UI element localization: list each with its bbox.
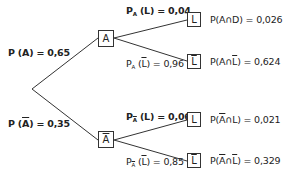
result-P-A-and-D: P(A∩D) = 0,026 [210, 15, 282, 25]
edge-label-PAbar-L: PA (L) = 0,06 [126, 112, 191, 122]
label-part: P ( [8, 118, 22, 129]
label-value: = 0,04 [154, 5, 191, 16]
edge-label-PAbar-Lbar: PA (L) = 0,85 [126, 157, 184, 167]
node-L-under-Abar: L [187, 112, 201, 127]
result-part: P( [210, 155, 219, 166]
label-part: ( [137, 111, 144, 122]
result-part: P(A [210, 56, 225, 67]
node-label: L [191, 15, 197, 25]
label-part: P ( [8, 47, 22, 58]
label-part: P [126, 111, 133, 122]
result-P-Abar-and-L: P(A∩L) = 0,021 [210, 115, 280, 125]
result-value: ) = 0,021 [237, 114, 280, 125]
result-P-A-and-Lbar: P(A∩L) = 0,624 [210, 57, 280, 67]
result-part: P(A [210, 14, 225, 25]
node-label: L [191, 115, 197, 125]
branch-Abar-to-L [114, 120, 187, 140]
result-part: P( [210, 114, 219, 125]
result-value: ) = 0,624 [237, 56, 280, 67]
edge-label-P-A: P (A) = 0,65 [8, 48, 70, 58]
label-value: ) = 0,65 [29, 47, 70, 58]
result-P-Abar-and-Lbar: P(A∩L) = 0,329 [210, 156, 280, 166]
edge-label-PA-L: PA (L) = 0,04 [126, 6, 191, 16]
label-part: P [126, 5, 133, 16]
node-L-under-A: L [187, 12, 201, 27]
probability-tree-diagram: P (A) = 0,65 P (A) = 0,35 A A PA (L) = 0… [0, 0, 285, 176]
node-label: L [191, 156, 197, 166]
result-value: ) = 0,329 [237, 155, 280, 166]
label-value: = 0,06 [154, 111, 191, 122]
node-Lbar-under-Abar: L [187, 153, 201, 168]
label-value: ) = 0,35 [29, 118, 70, 129]
label-part: ( [137, 5, 144, 16]
edge-label-P-Abar: P (A) = 0,35 [8, 119, 70, 129]
node-Lbar-under-A: L [187, 54, 201, 69]
label-value: = 0,85 [150, 156, 184, 167]
node-Abar: A [98, 131, 114, 148]
node-label: L [191, 57, 197, 67]
node-A: A [98, 30, 114, 47]
node-label: A [103, 135, 110, 145]
branch-root-to-A [32, 38, 98, 89]
branch-root-to-Abar [32, 89, 98, 140]
tree-branches [0, 0, 285, 176]
label-value: = 0,96 [150, 58, 184, 69]
branch-A-to-L [114, 20, 187, 38]
edge-label-PA-Lbar: PA (L) = 0,96 [126, 59, 184, 69]
node-label: A [103, 34, 110, 44]
result-value: ) = 0,026 [239, 14, 282, 25]
